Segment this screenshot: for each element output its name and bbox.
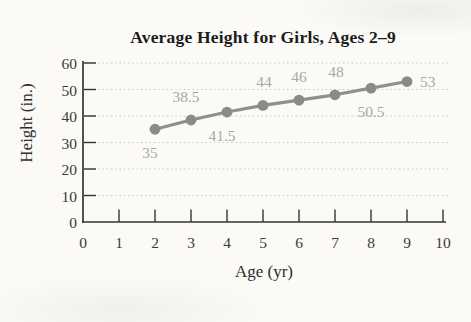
data-point [366, 83, 377, 94]
data-point-label: 50.5 [357, 103, 384, 120]
y-tick-label: 60 [62, 55, 78, 72]
data-point-label: 53 [420, 73, 436, 90]
x-tick-label: 4 [223, 234, 231, 251]
data-point-label: 48 [328, 63, 344, 80]
y-tick-label: 30 [62, 135, 78, 152]
data-point [222, 107, 233, 118]
x-tick-label: 7 [331, 234, 339, 251]
y-tick-label: 50 [62, 82, 78, 99]
x-tick-label: 1 [115, 234, 123, 251]
data-point [186, 115, 197, 126]
x-axis-title: Age (yr) [84, 262, 444, 282]
x-tick-label: 10 [435, 234, 451, 251]
chart-figure: Average Height for Girls, Ages 2–9 Heigh… [0, 0, 471, 322]
data-point [150, 124, 161, 135]
y-tick-label: 0 [69, 214, 77, 231]
x-tick-label: 9 [403, 234, 411, 251]
data-point-label: 38.5 [172, 88, 199, 105]
x-tick-label: 0 [79, 234, 87, 251]
data-point-label: 44 [256, 73, 272, 90]
x-tick-label: 5 [259, 234, 267, 251]
data-point-label: 35 [142, 144, 158, 161]
data-point [258, 100, 269, 111]
data-point [330, 89, 341, 100]
data-point-label: 46 [291, 68, 307, 85]
y-tick-label: 10 [62, 188, 78, 205]
x-tick-label: 8 [367, 234, 375, 251]
data-point [294, 95, 305, 106]
data-point [402, 76, 413, 87]
data-point-label: 41.5 [208, 127, 235, 144]
y-tick-label: 40 [62, 108, 78, 125]
y-axis-title: Height (in.) [17, 53, 37, 193]
x-tick-label: 6 [295, 234, 303, 251]
y-tick-label: 20 [62, 161, 78, 178]
x-tick-label: 3 [187, 234, 195, 251]
chart-title: Average Height for Girls, Ages 2–9 [83, 27, 443, 48]
x-tick-label: 2 [151, 234, 159, 251]
